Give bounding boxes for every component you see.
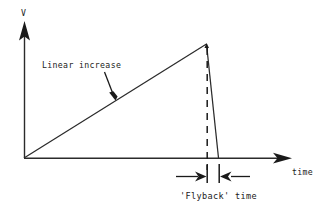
flyback-dimension-group: 'Flyback' time	[176, 164, 257, 201]
figure-root: V time Linear increase	[0, 0, 329, 215]
flyback-edge	[207, 44, 219, 158]
linear-increase-arrowhead-icon	[109, 91, 117, 100]
flyback-right-arrowhead-icon	[220, 171, 232, 181]
sawtooth-waveform-diagram: V time Linear increase	[0, 0, 329, 215]
x-axis-label: time	[292, 167, 313, 177]
flyback-time-label: 'Flyback' time	[180, 191, 257, 201]
linear-increase-callout: Linear increase	[42, 60, 121, 101]
linear-increase-label: Linear increase	[42, 60, 121, 70]
linear-increase-arrow-shaft	[105, 72, 114, 94]
y-axis-label: V	[21, 8, 26, 18]
axes-group	[19, 21, 292, 164]
